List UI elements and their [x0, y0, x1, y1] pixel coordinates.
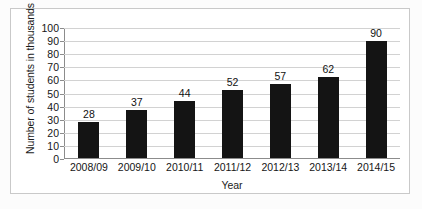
y-axis-tick-mark	[60, 54, 64, 55]
chart-screenshot: Number of students in thousands 10090807…	[0, 0, 422, 209]
x-axis-tick-label: 2009/10	[118, 161, 156, 173]
bar: 37	[126, 110, 147, 158]
bar-value-label: 90	[370, 27, 382, 39]
y-axis-tick-label: 40	[47, 101, 59, 113]
x-axis-title: Year	[64, 179, 400, 191]
x-axis-tick-label: 2008/09	[70, 161, 108, 173]
x-axis-tick-label: 2011/12	[214, 161, 251, 173]
bar-column: 282008/09	[65, 28, 113, 158]
bar-column: 572012/13	[256, 28, 304, 158]
bar: 57	[270, 84, 291, 158]
x-axis-tick-label: 2012/13	[261, 161, 299, 173]
y-axis-tick-mark	[60, 146, 64, 147]
bar: 90	[366, 41, 387, 158]
bar-column: 442010/11	[161, 28, 209, 158]
bar-column: 622013/14	[304, 28, 352, 158]
x-axis-tick-label: 2014/15	[357, 161, 395, 173]
y-axis-tick-mark	[60, 159, 64, 160]
y-axis-tick-label: 0	[53, 153, 59, 165]
bar-value-label: 28	[83, 108, 95, 120]
bar-value-label: 52	[227, 76, 239, 88]
y-axis-tick-label: 80	[47, 48, 59, 60]
bar: 62	[318, 77, 339, 158]
y-axis-tick-mark	[60, 28, 64, 29]
bar-value-label: 62	[322, 63, 334, 75]
bar-series: 282008/09372009/10442010/11522011/125720…	[65, 28, 400, 158]
bar-column: 522011/12	[209, 28, 257, 158]
y-axis-tick-label: 30	[47, 114, 59, 126]
x-axis-tick-label: 2013/14	[309, 161, 347, 173]
plot-area: 1009080706050403020100 282008/09372009/1…	[64, 28, 400, 159]
bar-column: 902014/15	[352, 28, 400, 158]
chart-figure: Number of students in thousands 10090807…	[10, 8, 410, 194]
y-axis-tick-label: 10	[47, 140, 59, 152]
y-axis-tick-mark	[60, 133, 64, 134]
y-axis-tick-mark	[60, 107, 64, 108]
y-axis-tick-mark	[60, 120, 64, 121]
x-axis-tick-label: 2010/11	[166, 161, 203, 173]
bar: 52	[222, 90, 243, 158]
y-axis-tick-label: 20	[47, 127, 59, 139]
y-axis-tick-label: 100	[41, 22, 59, 34]
y-axis-tick-mark	[60, 67, 64, 68]
bar-value-label: 44	[179, 87, 191, 99]
bar-column: 372009/10	[113, 28, 161, 158]
y-axis-tick-label: 50	[47, 88, 59, 100]
y-axis-tick-label: 90	[47, 35, 59, 47]
y-axis-tick-label: 70	[47, 61, 59, 73]
y-axis-tick-mark	[60, 80, 64, 81]
bar: 28	[78, 122, 99, 158]
gridline	[64, 159, 400, 160]
y-axis-title: Number of students in thousands	[24, 4, 36, 154]
bar-value-label: 57	[275, 70, 287, 82]
y-axis-tick-label: 60	[47, 74, 59, 86]
bar: 44	[174, 101, 195, 158]
bar-value-label: 37	[131, 96, 143, 108]
y-axis-tick-mark	[60, 41, 64, 42]
y-axis-tick-mark	[60, 94, 64, 95]
